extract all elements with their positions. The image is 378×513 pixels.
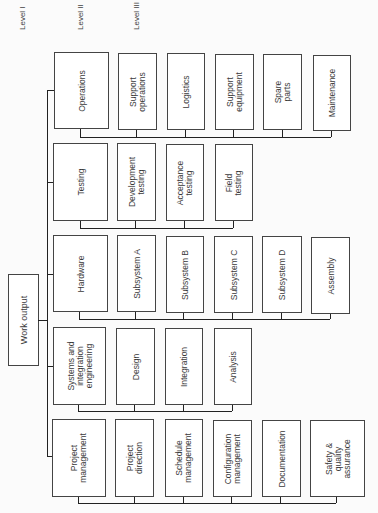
tick <box>135 312 136 319</box>
project-connector <box>78 503 336 504</box>
project-management-label: Project management <box>70 433 88 483</box>
schedule-management-box: Schedule management <box>165 419 203 497</box>
design-label: Design <box>131 353 140 379</box>
tick <box>78 405 79 411</box>
subsystem-a-label: Subsystem A <box>132 249 141 299</box>
tick <box>233 221 234 228</box>
work-output-label: Work output <box>19 296 28 344</box>
subsystem-d-label: Subsystem D <box>278 249 287 300</box>
operations-stub <box>47 90 54 91</box>
tick <box>136 130 137 137</box>
tick <box>183 313 184 319</box>
tick <box>134 497 135 503</box>
hardware-box: Hardware <box>53 235 108 312</box>
analysis-label: Analysis <box>229 351 238 383</box>
subsystem-b-box: Subsystem B <box>166 236 204 313</box>
acceptance-testing-box: Acceptance testing <box>166 144 204 221</box>
tick <box>184 221 185 228</box>
development-testing-label: Development testing <box>128 157 146 207</box>
integration-box: Integration <box>165 328 203 405</box>
subsystem-c-label: Subsystem C <box>229 249 238 300</box>
operations-box: Operations <box>54 52 109 129</box>
tick <box>134 405 135 411</box>
documentation-box: Documentation <box>262 420 301 497</box>
tick <box>336 497 337 503</box>
support-equipment-box: Support equipment <box>215 54 254 130</box>
tick <box>233 130 234 137</box>
tick <box>281 313 282 319</box>
systems-connector <box>78 411 232 412</box>
testing-connector <box>80 228 233 229</box>
integration-label: Integration <box>180 346 189 386</box>
project-management-box: Project management <box>52 419 106 497</box>
field-testing-box: Field testing <box>215 144 253 221</box>
subsystem-a-box: Subsystem A <box>117 235 156 312</box>
operations-connector <box>80 137 331 138</box>
subsystem-b-label: Subsystem B <box>181 249 190 299</box>
project-direction-label: Project direction <box>126 442 144 474</box>
documentation-label: Documentation <box>277 430 286 487</box>
testing-label: Testing <box>76 169 85 196</box>
tick <box>79 312 80 319</box>
tick <box>282 130 283 137</box>
operations-label: Operations <box>77 70 86 112</box>
testing-box: Testing <box>53 143 108 221</box>
support-equipment-label: Support equipment <box>226 72 244 112</box>
tick <box>78 497 79 503</box>
spare-parts-box: Spare parts <box>263 54 302 130</box>
tick <box>232 405 233 411</box>
configuration-management-label: Configuration management <box>224 433 242 484</box>
tick <box>280 497 281 503</box>
spare-parts-label: Spare parts <box>274 81 292 104</box>
level-1-label: Level I <box>18 6 27 30</box>
development-testing-box: Development testing <box>117 143 156 221</box>
tick <box>135 221 136 228</box>
tick <box>330 314 331 319</box>
maintenance-box: Maintenance <box>313 55 351 131</box>
assembly-label: Assembly <box>326 257 335 294</box>
tick <box>183 497 184 503</box>
maintenance-label: Maintenance <box>328 69 337 118</box>
acceptance-testing-label: Acceptance testing <box>176 160 194 204</box>
configuration-management-box: Configuration management <box>213 420 252 497</box>
logistics-box: Logistics <box>167 53 205 130</box>
assembly-box: Assembly <box>311 237 350 314</box>
design-box: Design <box>116 328 155 405</box>
logistics-label: Logistics <box>182 75 191 108</box>
level-3-label: Level III <box>132 2 141 30</box>
tick <box>331 131 332 137</box>
field-testing-label: Field testing <box>225 170 243 195</box>
hardware-connector <box>79 319 330 320</box>
tick <box>80 221 81 228</box>
subsystem-d-box: Subsystem D <box>262 236 302 313</box>
project-direction-box: Project direction <box>115 419 154 497</box>
hardware-label: Hardware <box>76 255 85 292</box>
level-2-label: Level II <box>76 4 85 30</box>
systems-integration-label: Systems and integration engineering <box>66 341 93 390</box>
schedule-management-label: Schedule management <box>175 433 193 483</box>
tick <box>232 313 233 319</box>
safety-quality-box: Safety & quality assurance <box>310 420 365 497</box>
tick <box>231 497 232 503</box>
support-operations-label: Support operations <box>129 72 147 112</box>
analysis-box: Analysis <box>214 328 252 405</box>
subsystem-c-box: Subsystem C <box>214 236 253 313</box>
tick <box>183 405 184 411</box>
safety-quality-label: Safety & quality assurance <box>324 439 351 478</box>
tick <box>185 130 186 137</box>
work-output-box: Work output <box>8 274 39 366</box>
tick <box>80 129 81 137</box>
support-operations-box: Support operations <box>118 53 157 130</box>
systems-integration-box: Systems and integration engineering <box>53 327 106 405</box>
